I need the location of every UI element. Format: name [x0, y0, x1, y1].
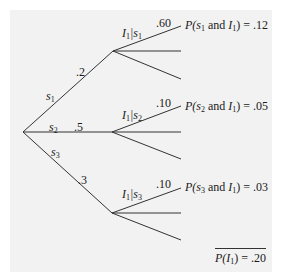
branch-s2-low [112, 132, 181, 159]
conditional-prob-s2: .10 [156, 97, 171, 109]
conditional-label-i1-s1: I1|s1 [122, 27, 142, 41]
joint-prob-s1: P(s1 and I1) = .12 [185, 19, 268, 33]
prob-label-s2: .5 [74, 121, 83, 133]
branch-s1-low [113, 51, 181, 79]
prob-label-s1: .2 [76, 66, 85, 78]
branch-s3-low [112, 213, 181, 240]
state-label-s2: s2 [49, 121, 58, 135]
joint-prob-s3: P(s3 and I1) = .03 [185, 181, 268, 195]
prob-label-s3: .3 [78, 174, 87, 186]
joint-prob-s2: P(s2 and I1) = .05 [185, 100, 268, 114]
conditional-label-i1-s2: I1|s2 [122, 109, 142, 123]
branch-s3 [23, 132, 112, 213]
tree-lines [0, 0, 283, 277]
state-label-s3: s3 [51, 146, 60, 160]
conditional-prob-s3: .10 [156, 178, 171, 190]
branch-s1 [23, 51, 113, 132]
total-probability: P(I1) = .20 [215, 248, 266, 266]
state-label-s1: s1 [46, 90, 55, 104]
conditional-label-i1-s3: I1|s3 [122, 188, 142, 202]
conditional-prob-s1: .60 [156, 17, 171, 29]
